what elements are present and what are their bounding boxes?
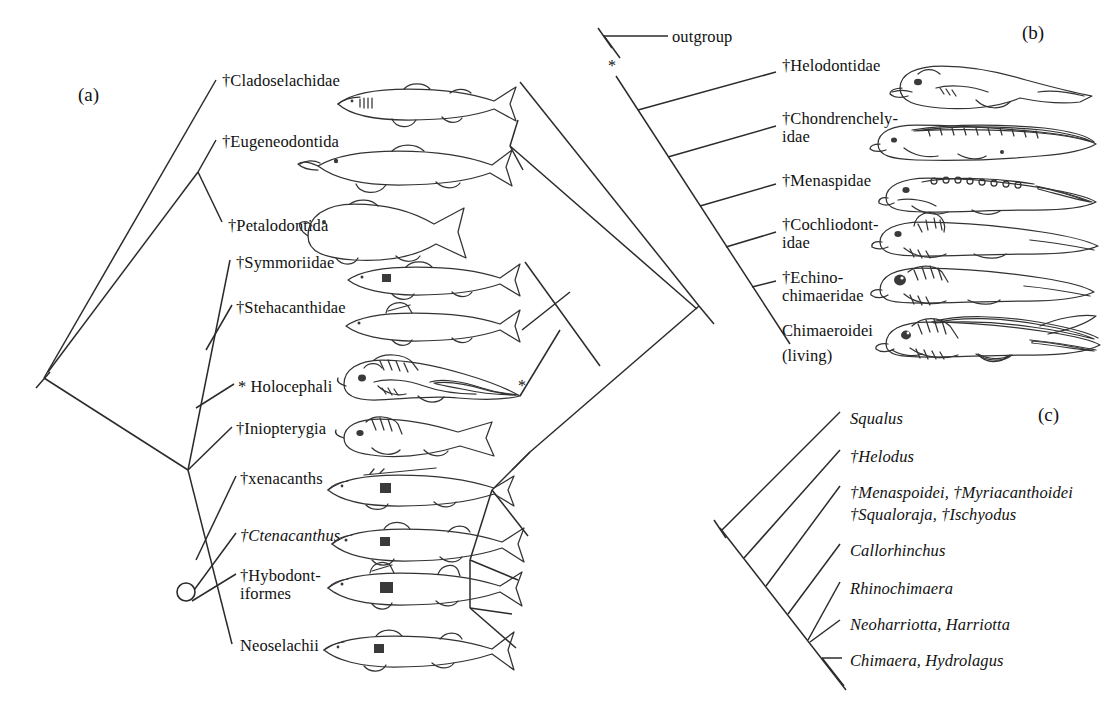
- taxon-label-xenacanths: †xenacanths: [240, 470, 323, 488]
- panel-c-tree: [714, 412, 846, 690]
- panel-b-tree: [598, 28, 790, 344]
- taxon-label-echinochimaeridae-line2: chimaeridae: [782, 287, 864, 305]
- fish-art-cladoselachidae: [330, 82, 522, 128]
- panel-tag-a: (a): [78, 84, 99, 106]
- taxon-label-iniopterygia: †Iniopterygia: [236, 420, 326, 438]
- taxon-label-echinochimaeridae-line1: †Echino-: [782, 269, 843, 287]
- taxon-label-helodus: †Helodus: [850, 448, 914, 466]
- fish-art-neoselachii: [316, 626, 520, 674]
- fish-art-eugeneodontida: [296, 140, 518, 196]
- fish-art-chondrenchelyidae: [868, 114, 1100, 166]
- taxon-label-cochliodontidae-line2: idae: [782, 234, 810, 252]
- outgroup-label: outgroup: [672, 28, 732, 46]
- taxon-label-chondrenchelyidae-line2: idae: [782, 128, 810, 146]
- fish-art-symmoriidae: [340, 258, 526, 302]
- panel-a-left-tree: [36, 80, 236, 644]
- taxon-label-squaloraja-ischyodus: †Squaloraja, †Ischyodus: [850, 506, 1016, 524]
- fish-art-stehacanthidae: [338, 300, 528, 348]
- taxon-label-cochliodontidae-line1: †Cochliodont-: [782, 216, 879, 234]
- taxon-label-neoselachii: Neoselachii: [240, 637, 319, 655]
- fish-art-xenacanths: [318, 464, 522, 512]
- asterisk-marker-panel-b: *: [608, 58, 616, 74]
- taxon-label-chimaeroidei-line1: Chimaeroidei: [782, 322, 873, 340]
- fish-art-hybodontiformes: [318, 560, 530, 612]
- taxon-label-hybodontiformes-line2: iformes: [240, 585, 291, 603]
- taxon-label-holocephali: * Holocephali: [238, 378, 332, 396]
- taxon-label-cladoselachidae: †Cladoselachidae: [222, 72, 340, 90]
- taxon-label-neoharriotta-harriotta: Neoharriotta, Harriotta: [850, 616, 1010, 634]
- fish-art-holocephali: [334, 352, 530, 410]
- panel-tag-c: (c): [1038, 404, 1059, 426]
- taxon-label-stehacanthidae: †Stehacanthidae: [236, 299, 346, 317]
- taxon-label-hybodontiformes-line1: †Hybodont-: [240, 567, 321, 585]
- fish-art-chimaeroidei-living: [872, 308, 1102, 370]
- figure-chondrichthyan-cladograms: (a) (b) (c) †Cladoselachidae †Eugeneodon…: [0, 0, 1112, 708]
- fish-art-echinochimaeridae: [868, 258, 1098, 314]
- panel-tag-b: (b): [1022, 22, 1044, 44]
- taxon-label-callorhinchus: Callorhinchus: [850, 542, 945, 560]
- taxon-label-rhinochimaera: Rhinochimaera: [850, 580, 953, 598]
- node-marker-circle: [177, 583, 195, 601]
- taxon-label-helodontidae: †Helodontidae: [782, 57, 880, 75]
- taxon-label-menaspidae: †Menaspidae: [782, 172, 871, 190]
- taxon-label-menaspoidei-myriacanthoidei: †Menaspoidei, †Myriacanthoidei: [850, 484, 1073, 502]
- fish-art-helodontidae: [888, 58, 1100, 116]
- fish-art-iniopterygia: [332, 414, 512, 462]
- taxon-label-chimaera-hydrolagus: Chimaera, Hydrolagus: [850, 652, 1004, 670]
- taxon-label-squalus: Squalus: [850, 410, 903, 428]
- taxon-label-chimaeroidei-line2: (living): [782, 347, 832, 365]
